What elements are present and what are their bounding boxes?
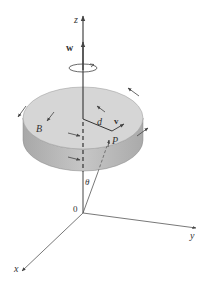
x-axis-label: x bbox=[13, 263, 19, 274]
z-axis-label: z bbox=[73, 14, 78, 25]
B-label: B bbox=[36, 123, 42, 134]
theta-label: θ bbox=[85, 177, 90, 187]
w-label: w bbox=[66, 42, 74, 53]
arrow-rim-top bbox=[128, 88, 139, 96]
coordinate-axes bbox=[22, 172, 196, 271]
x-axis bbox=[22, 213, 83, 271]
P-label: P bbox=[111, 135, 118, 146]
y-axis-label: y bbox=[189, 230, 195, 241]
y-axis bbox=[83, 213, 196, 228]
rotating-disk-diagram: z w d v P B θ 0 y x bbox=[0, 0, 204, 285]
origin-label: 0 bbox=[73, 204, 78, 214]
v-label: v bbox=[114, 116, 119, 126]
